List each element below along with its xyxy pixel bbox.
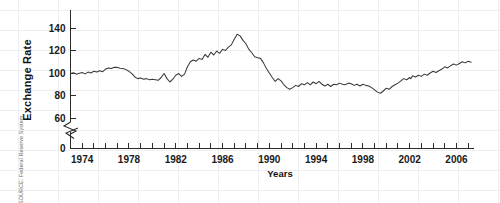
- x-axis-tick-label: 1974: [71, 154, 94, 165]
- chart-figure: 06080100120140 1974197819821986199019941…: [0, 0, 500, 203]
- y-axis-tick-label: 100: [49, 68, 66, 79]
- y-axis-tick-labels: 06080100120140: [49, 23, 66, 155]
- x-axis-tick-label: 1994: [305, 154, 328, 165]
- x-axis-tick-label: 1990: [258, 154, 281, 165]
- x-axis-tick-label: 1986: [211, 154, 234, 165]
- x-axis-tick-label: 2002: [399, 154, 422, 165]
- y-axis-tick-label: 0: [60, 143, 66, 154]
- x-axis-tick-label: 2006: [445, 154, 468, 165]
- x-axis-title: Years: [240, 168, 320, 179]
- exchange-rate-line-series: [71, 34, 472, 93]
- x-axis-tick-label: 1998: [352, 154, 375, 165]
- source-note: SOURCE: Federal Reserve System.: [18, 94, 24, 203]
- chart-axes: [64, 10, 474, 149]
- x-axis-tick-label: 1978: [118, 154, 141, 165]
- y-axis-tick-label: 80: [54, 90, 66, 101]
- x-axis-tick-labels: 197419781982198619901994199820022006: [71, 154, 468, 165]
- y-axis-tick-label: 60: [54, 113, 66, 124]
- y-axis-tick-label: 140: [49, 23, 66, 34]
- x-axis-ticks: [82, 143, 468, 149]
- y-axis-tick-label: 120: [49, 45, 66, 56]
- x-axis-tick-label: 1982: [165, 154, 188, 165]
